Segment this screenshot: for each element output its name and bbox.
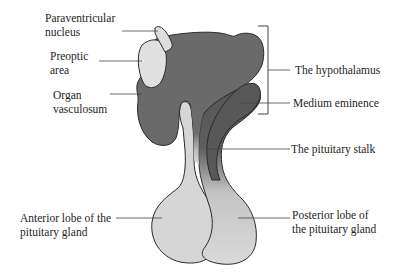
label-paraventricular-nucleus: Paraventricular nucleus xyxy=(45,11,115,39)
label-posterior-lobe: Posterior lobe of the pituitary gland xyxy=(292,208,376,236)
label-organ-vasculosum: Organ vasculosum xyxy=(53,88,107,116)
label-medium-eminence: Medium eminence xyxy=(293,96,379,110)
label-pituitary-stalk: The pituitary stalk xyxy=(291,142,375,156)
label-preoptic-area: Preoptic area xyxy=(50,49,88,77)
label-hypothalamus: The hypothalamus xyxy=(295,63,380,77)
label-anterior-lobe: Anterior lobe of the pituitary gland xyxy=(20,211,111,239)
